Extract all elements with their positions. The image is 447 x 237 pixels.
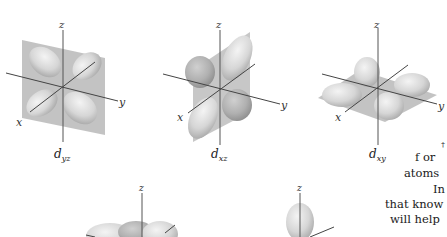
orbital-dz2-partial: z	[286, 183, 334, 237]
text-line: that know	[385, 197, 443, 211]
orbital-label-dyz: dyz	[54, 147, 71, 163]
lobe	[142, 221, 178, 237]
text-fragment: †	[441, 138, 445, 152]
orbital-dxz: z y x dxz	[163, 19, 288, 163]
text-line: will help	[390, 212, 440, 226]
y-axis-label: y	[118, 96, 126, 109]
z-axis-label: z	[296, 183, 302, 193]
x-axis-label: x	[177, 111, 184, 124]
lobe	[222, 89, 252, 121]
lobe	[394, 73, 430, 97]
text-line: In	[433, 182, 445, 196]
text-line: f or	[415, 150, 435, 164]
orbital-label-dxy: dxy	[369, 147, 386, 163]
orbital-dyz: z y x dyz	[6, 19, 126, 163]
z-axis-label: z	[215, 19, 222, 30]
x-axis	[310, 227, 334, 237]
y-axis-label: y	[280, 99, 288, 112]
z-axis-label: z	[373, 19, 380, 30]
z-axis-label: z	[58, 19, 65, 30]
text-line: atoms	[404, 166, 439, 180]
d-orbitals-figure: z y x dyz z y x dxz z y x dxy	[0, 0, 447, 237]
y-axis-label: y	[437, 100, 445, 113]
x-axis-label: x	[335, 111, 342, 124]
lobe	[354, 57, 380, 87]
z-axis-label: z	[138, 183, 144, 193]
orbital-dx2-y2-partial: z	[86, 183, 178, 237]
orbital-label-dxz: dxz	[211, 147, 228, 163]
x-axis-label: x	[16, 116, 23, 129]
orbital-dxy: z y x dxy	[318, 19, 445, 163]
